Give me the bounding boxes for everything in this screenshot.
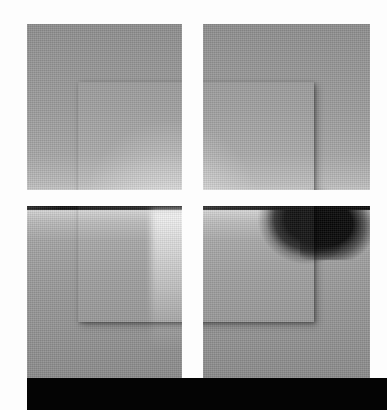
artboard — [0, 0, 387, 410]
foliage-cluster-secondary — [300, 200, 370, 260]
margin-right — [370, 0, 387, 378]
margin-top — [0, 0, 387, 24]
margin-left — [0, 0, 27, 410]
bottom-black-band — [27, 378, 387, 410]
cross-horizontal-band — [0, 190, 387, 206]
